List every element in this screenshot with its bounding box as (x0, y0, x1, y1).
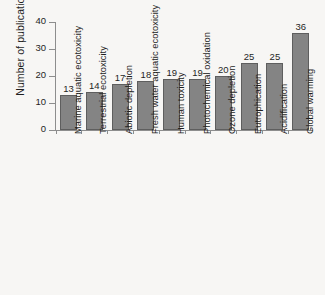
y-axis-tick-label: 30 (35, 42, 46, 53)
x-axis-category-label: Abiotic depletion (124, 65, 134, 134)
x-axis-category-label: Photochemical oxidation (202, 32, 212, 134)
y-axis-tick: 20 (49, 76, 55, 77)
y-axis-tick: 10 (49, 103, 55, 104)
y-axis-tick-label: 0 (41, 123, 46, 134)
x-axis-category-label: Eutrophication (253, 74, 263, 134)
y-axis-tick-label: 20 (35, 69, 46, 80)
x-axis-category-label: Marine aquatic ecotoxicity (73, 26, 83, 134)
x-axis-category-label: Terrestrial ecotoxicity (98, 46, 108, 134)
y-axis-tick-label: 10 (35, 96, 46, 107)
x-axis-category-label: Global warming (305, 69, 315, 134)
y-axis-tick-label: 40 (35, 15, 46, 26)
y-axis-tick: 0 (49, 130, 55, 131)
bar-value-label: 36 (295, 21, 306, 32)
y-axis-tick: 40 (49, 22, 55, 23)
x-axis-category-label: Acidification (279, 84, 289, 134)
y-axis-title: Number of publications (12, 0, 28, 101)
bar-value-label: 25 (270, 51, 281, 62)
x-axis-category-label: Fresh water aquatic ecotoxicity (150, 5, 160, 134)
y-axis-line (55, 22, 56, 131)
x-axis-category-label: Ozone depletion (227, 66, 237, 134)
x-axis-category-label: Human toxicity (176, 72, 186, 134)
bar-value-label: 25 (244, 51, 255, 62)
y-axis-tick: 30 (49, 49, 55, 50)
x-axis-tick (56, 130, 57, 134)
bar-chart-figure: Number of publications 010203040 1314171… (0, 0, 325, 295)
